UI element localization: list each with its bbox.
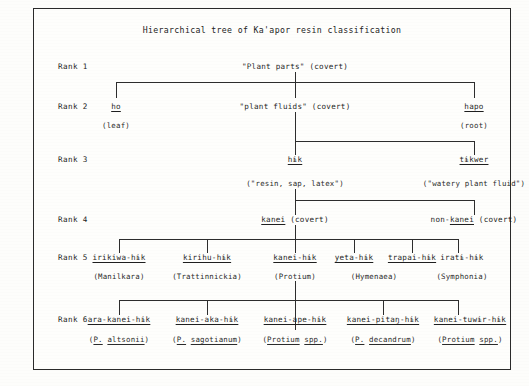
rank-label-6: Rank 6 — [58, 315, 88, 324]
gloss-protium: (Protium) — [274, 272, 316, 281]
node-kanei-tuwir-hik-label: kanei-tuwɨr-hɨk — [434, 315, 506, 324]
gloss-protium-spp-2: (Protium spp.) — [437, 335, 502, 344]
node-plant-parts: "Plant parts" (covert) — [242, 62, 348, 71]
node-irikiwa-hik: irikiwa-hɨk — [92, 253, 145, 262]
gloss-p-sagotianum: (P. sagotianum) — [172, 335, 242, 344]
rank-label-4: Rank 4 — [58, 215, 88, 224]
connector-r1-stem — [295, 72, 296, 82]
node-ara-kanei-hik-label: ara-kanei-hɨk — [88, 315, 151, 324]
rank-label-2: Rank 2 — [58, 102, 88, 111]
paren-close: ) — [498, 335, 503, 344]
connector-r3-bar — [295, 200, 474, 201]
gloss-p-decandrum: (P. decandrum) — [350, 335, 415, 344]
node-tikwer-label: tɨkwer — [460, 155, 489, 164]
connector-r4-drop-3 — [295, 239, 296, 253]
paren-close: ) — [145, 335, 150, 344]
node-ara-kanei-hik: ara-kanei-hɨk — [88, 315, 151, 324]
species-epithet: spp. — [479, 335, 498, 344]
species-epithet: sagotianum — [191, 335, 238, 344]
node-irati-hik: iratɨ-hɨk — [440, 253, 483, 262]
connector-r4-drop-5 — [412, 239, 413, 253]
gloss-ho: (leaf) — [102, 121, 130, 130]
connector-r3-stem — [295, 189, 296, 200]
gloss-trattinnickia: (Trattinnickia) — [172, 272, 242, 281]
node-kanei-hik: kanei-hɨk — [273, 253, 316, 262]
genus-abbr: Protium — [442, 335, 475, 344]
gloss-p-altsonii: (P. altsonii) — [89, 335, 149, 344]
node-kanei-aka-hik-label: kanei-aka-hɨk — [176, 315, 239, 324]
connector-r5-bar — [119, 300, 458, 301]
node-kanei-ape-hik: kanei-ape-hɨk — [264, 315, 327, 324]
node-irati-hik-label: iratɨ-hɨk — [440, 253, 483, 262]
node-tikwer: tɨkwer — [460, 155, 489, 164]
node-trapai-hik-label: trapai-hɨk — [388, 253, 436, 262]
figure-canvas: Hierarchical tree of Ka'apor resin class… — [0, 0, 529, 386]
species-epithet: decandrum — [369, 335, 411, 344]
figure-title: Hierarchical tree of Ka'apor resin class… — [34, 25, 510, 35]
connector-r4-drop-2 — [207, 239, 208, 253]
node-non-kanei-suffix: (covert) — [474, 215, 517, 224]
node-trapai-hik: trapai-hɨk — [388, 253, 436, 262]
paren-close: ) — [237, 335, 242, 344]
connector-r5-drop-1 — [119, 300, 120, 315]
connector-r2-drop-right — [474, 141, 475, 155]
node-yeta-hik: yeta-hɨk — [335, 253, 374, 262]
species-epithet: altsonii — [107, 335, 144, 344]
connector-r2-stem — [295, 112, 296, 141]
connector-r1-drop-right — [474, 82, 475, 98]
species-epithet: spp. — [304, 335, 323, 344]
node-kanei-label: kanei — [261, 215, 285, 224]
connector-r5-drop-4 — [383, 300, 384, 315]
paren-close: ) — [323, 335, 328, 344]
gloss-manilkara: (Manilkara) — [93, 272, 144, 281]
node-kanei-tuwir-hik: kanei-tuwɨr-hɨk — [434, 315, 506, 324]
rank-label-3: Rank 3 — [58, 155, 88, 164]
paren-close: ) — [411, 335, 416, 344]
node-plant-fluids: "plant fluids" (covert) — [240, 102, 351, 111]
node-kanei-hik-label: kanei-hɨk — [273, 253, 316, 262]
node-kanei-pitan-hik: kanei-pitaŋ-hɨk — [347, 315, 419, 324]
connector-r4-stem — [295, 225, 296, 239]
node-kanei-aka-hik: kanei-aka-hɨk — [176, 315, 239, 324]
node-kanei-ape-hik-label: kanei-ape-hɨk — [264, 315, 327, 324]
node-kanei-suffix: (covert) — [285, 215, 328, 224]
node-hik: hɨk — [288, 155, 302, 164]
connector-r3-drop-left — [295, 200, 296, 215]
connector-r4-drop-6 — [458, 239, 459, 253]
genus-abbr: P. — [93, 335, 102, 344]
node-ho: ho — [111, 102, 121, 111]
gloss-hapo: (root) — [460, 121, 488, 130]
connector-r4-drop-4 — [354, 239, 355, 253]
node-hapo-label: hapo — [464, 102, 483, 111]
node-kanei-covert: kanei (covert) — [261, 215, 329, 224]
gloss-hik: ("resin, sap, latex") — [246, 179, 344, 188]
connector-r1-drop-left — [116, 82, 117, 98]
node-kirihu-hik: kirihu-hɨk — [183, 253, 231, 262]
node-ho-label: ho — [111, 102, 121, 111]
node-non-kanei-covert: non-kanei (covert) — [431, 215, 518, 224]
figure-frame: Hierarchical tree of Ka'apor resin class… — [33, 8, 511, 370]
node-hapo: hapo — [464, 102, 483, 111]
connector-r2-bar — [295, 141, 474, 142]
genus-abbr: Protium — [267, 335, 300, 344]
connector-r1-drop-mid — [295, 82, 296, 98]
connector-r5-drop-5 — [458, 300, 459, 315]
genus-abbr: P. — [355, 335, 364, 344]
node-irikiwa-hik-label: irikiwa-hɨk — [92, 253, 145, 262]
connector-r5-drop-2 — [207, 300, 208, 315]
connector-r4-drop-1 — [119, 239, 120, 253]
node-kanei-pitan-hik-label: kanei-pitaŋ-hɨk — [347, 315, 419, 324]
connector-r2-drop-left — [295, 141, 296, 155]
connector-r3-drop-right — [474, 200, 475, 215]
node-non-kanei-prefix: non- — [431, 215, 450, 224]
gloss-symphonia: (Symphonia) — [436, 272, 487, 281]
gloss-hymenaea: (Hymenaea) — [351, 272, 398, 281]
rank-label-1: Rank 1 — [58, 62, 88, 71]
connector-r5-stem — [295, 281, 296, 300]
node-non-kanei-label: kanei — [450, 215, 474, 224]
node-hik-label: hɨk — [288, 155, 302, 164]
gloss-protium-spp-1: (Protium spp.) — [262, 335, 327, 344]
rank-label-5: Rank 5 — [58, 253, 88, 262]
gloss-tikwer: ("watery plant fluid") — [423, 179, 525, 188]
node-yeta-hik-label: yeta-hɨk — [335, 253, 374, 262]
